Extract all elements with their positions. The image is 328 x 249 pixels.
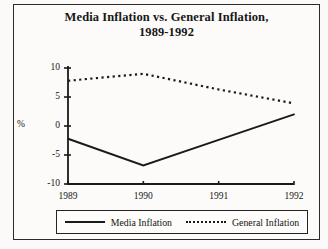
y-axis-tick-label: 10 [26,62,60,72]
legend-item-general-inflation: General Inflation [186,217,299,228]
legend: Media Inflation General Inflation [56,210,308,234]
x-axis-tick-label: 1992 [274,191,314,201]
x-axis-tick-label: 1991 [199,191,239,201]
y-axis-tick-label: -10 [26,178,60,188]
series-line-media-inflation [68,114,294,165]
legend-swatch-solid-line-icon [65,221,105,223]
legend-item-media-inflation: Media Inflation [65,217,172,228]
x-axis-tick-label: 1989 [48,191,88,201]
legend-label-media-inflation: Media Inflation [111,217,172,228]
legend-swatch-dotted-line-icon [186,221,226,223]
series-line-general-inflation [68,74,294,104]
y-axis-tick-label: -5 [26,149,60,159]
x-axis-tick-label: 1990 [123,191,163,201]
y-axis-tick-label: 0 [26,120,60,130]
legend-label-general-inflation: General Inflation [232,217,299,228]
chart-figure: Media Inflation vs. General Inflation, 1… [0,0,328,249]
y-axis-tick-label: 5 [26,91,60,101]
